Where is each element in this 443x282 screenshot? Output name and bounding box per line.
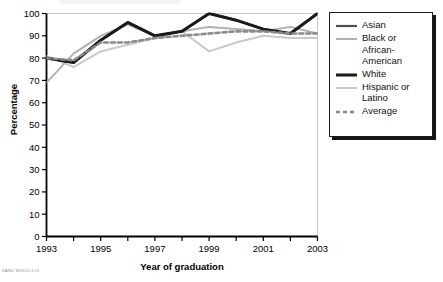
y-tick-label: 80 [29,53,40,64]
x-tick-label: 2001 [253,243,274,254]
y-tick-label: 20 [29,186,40,197]
series-line [47,25,318,83]
y-tick-label: 50 [29,119,40,130]
legend-swatch-average [336,106,357,118]
y-tick-label: 70 [29,75,40,86]
y-tick-label: 100 [24,8,40,19]
legend-item-label: Asian [362,19,386,31]
series-line [47,14,318,63]
y-tick-label: 40 [29,142,40,153]
legend-item-label: Black or African- American [362,32,402,67]
x-axis-ticks: 199319951997199920012003 [36,237,328,254]
x-tick-label: 1999 [199,243,220,254]
x-axis-title: Year of graduation [46,261,318,272]
figure-footnote: RAND MG515-3.11 [2,268,39,273]
x-tick-label: 2003 [307,243,328,254]
x-tick-label: 1993 [36,243,57,254]
x-tick-label: 1997 [144,243,165,254]
legend-swatch-hispanic-or-latino [336,82,357,94]
legend-item[interactable]: Hispanic or Latino [336,81,428,104]
y-tick-label: 30 [29,164,40,175]
x-tick-label: 1995 [90,243,111,254]
series-line [47,14,318,63]
legend-swatch-white [336,69,357,81]
legend-swatch-black-or-african-american [336,33,357,45]
chart-legend: AsianBlack or African- AmericanWhiteHisp… [329,12,433,137]
legend-item[interactable]: White [336,68,428,80]
graduation-rate-line-chart: Percentage 01020304050607080901001993199… [0,0,443,282]
y-tick-label: 0 [34,231,39,242]
legend-item-label: Hispanic or Latino [362,81,410,104]
legend-item[interactable]: Black or African- American [336,32,428,67]
legend-item-label: Average [362,105,397,117]
legend-swatch-asian [336,20,357,32]
y-tick-label: 10 [29,209,40,220]
y-tick-label: 60 [29,97,40,108]
legend-item-label: White [362,68,386,80]
y-axis-ticks: 0102030405060708090100 [24,8,47,242]
legend-item[interactable]: Asian [336,19,428,31]
series-group [47,14,318,83]
legend-item[interactable]: Average [336,105,428,117]
plot-frame [47,14,318,237]
y-tick-label: 90 [29,30,40,41]
